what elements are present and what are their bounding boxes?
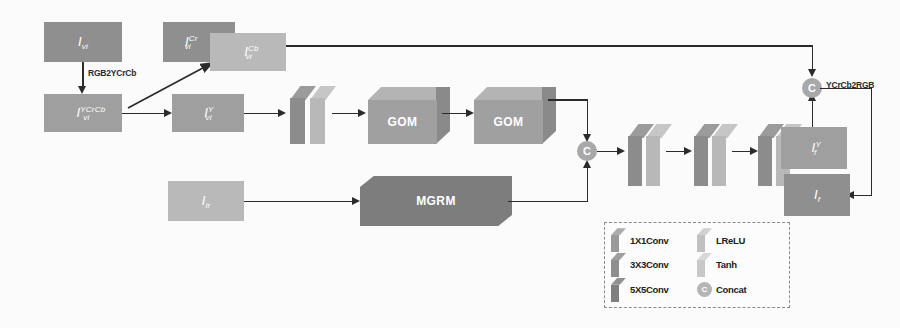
module-gom-1-label: GOM	[388, 115, 418, 129]
conv-slab-1x1-icon-front	[611, 235, 619, 252]
block-infrared: Iir	[168, 181, 244, 221]
conv-slab-1x1-icon-top	[611, 228, 626, 235]
decoder-activation-slab-1-front	[646, 136, 660, 186]
legend-label-concat: Concat	[716, 284, 746, 295]
module-mgrm: MGRM	[360, 176, 512, 226]
arrowhead-gom1-to-gom2	[466, 109, 474, 117]
arrowhead-mgrm-to-concat	[583, 160, 591, 168]
block-fused-rgb-label: If	[814, 187, 820, 204]
legend-item-lrelu: LReLU	[697, 228, 783, 253]
block-fused-y: IYf	[781, 127, 847, 169]
arrowhead-decoder-2-to-3	[750, 147, 758, 155]
tanh-slab-icon	[697, 253, 712, 277]
route-mgrm-to-concat-h	[508, 201, 588, 203]
block-visible-rgb-label: Ivi	[78, 34, 88, 51]
block-visible-cb-label: ICbvi	[244, 44, 252, 61]
legend-label-lrelu: LReLU	[716, 235, 745, 246]
arrow-rgb-to-ycrcb	[82, 62, 84, 88]
architecture-diagram: Ivi RGB2YCrCb IYCrCbvi ICrvi ICbvi IYvi	[0, 0, 900, 328]
conv-slab-3x3-icon-front	[611, 260, 619, 277]
module-gom-2-front: GOM	[474, 100, 543, 144]
feature-concat-node: C	[577, 141, 597, 161]
arrowhead-ycrcb-to-y	[164, 109, 172, 117]
block-visible-ycrcb-label: IYCrCbvi	[76, 105, 89, 122]
legend-item-tanh: Tanh	[697, 253, 783, 278]
conv-slab-5x5-icon-top	[611, 278, 626, 285]
block-fused-rgb: If	[784, 174, 850, 216]
block-infrared-label: Iir	[202, 193, 211, 210]
legend-label-5x5conv: 5X5Conv	[630, 284, 669, 295]
decoder-conv-slab-3-front	[758, 136, 772, 186]
route-fused-y-to-color-concat	[812, 99, 814, 127]
block-visible-rgb: Ivi	[44, 22, 122, 62]
block-visible-y-label: IYvi	[204, 105, 212, 122]
module-gom-1-side	[436, 87, 450, 144]
arrow-y-to-encoder	[244, 113, 280, 115]
legend-item-5x5conv: 5X5Conv	[611, 277, 697, 302]
encoder-activation-slab-front	[310, 98, 325, 144]
module-gom-2-side	[542, 87, 556, 144]
route-gom2-to-concat-v	[587, 99, 589, 138]
lrelu-slab-icon-front	[697, 235, 705, 252]
arrow-concat-to-decoder	[597, 151, 619, 153]
color-concat-label: C	[808, 82, 816, 94]
decoder-conv-slab-2-front	[694, 136, 708, 186]
block-visible-cb: ICbvi	[210, 33, 286, 71]
arrow-encoder-to-gom1	[332, 113, 360, 115]
tanh-slab-icon-front	[697, 260, 705, 277]
encoder-conv-slab-front	[290, 98, 305, 144]
conv-slab-3x3-icon-top	[611, 253, 626, 260]
decoder-activation-slab-2	[712, 124, 738, 186]
color-concat-node: C	[802, 78, 822, 98]
block-fused-y-label: IYf	[812, 140, 817, 157]
arrowhead-y-to-encoder	[278, 109, 286, 117]
concat-circle-icon: C	[697, 282, 712, 297]
decoder-conv-slab-1-front	[628, 136, 642, 186]
legend-item-concat: C Concat	[697, 277, 783, 302]
arrowhead-encoder-to-gom1	[358, 109, 366, 117]
route-mgrm-to-concat-v	[587, 166, 589, 201]
route-cb-to-color-concat-h	[286, 45, 813, 47]
route-gom2-to-concat-h	[548, 99, 588, 101]
decoder-activation-slab-2-front	[712, 136, 726, 186]
legend-item-1x1conv: 1X1Conv	[611, 228, 697, 253]
module-gom-1-front: GOM	[368, 100, 437, 144]
arrowhead-decoder-1-to-2	[684, 147, 692, 155]
block-visible-ycrcb: IYCrCbvi	[44, 94, 122, 132]
feature-concat-label: C	[583, 145, 591, 157]
arrow-decoder-2-to-3	[732, 151, 752, 153]
conv-slab-1x1-icon	[611, 228, 626, 252]
arrow-ir-to-mgrm	[244, 201, 354, 203]
route-color-concat-out-h2	[852, 195, 871, 197]
arrow-decoder-1-to-2	[666, 151, 686, 153]
arrow-gom1-to-gom2	[442, 113, 468, 115]
route-color-concat-out-h1	[820, 88, 872, 90]
conv-slab-5x5-icon-front	[611, 285, 619, 302]
arrowhead-concat-to-decoder	[617, 147, 625, 155]
conv-slab-5x5-icon	[611, 278, 626, 302]
module-gom-2: GOM	[474, 87, 556, 144]
module-gom-2-label: GOM	[494, 115, 524, 129]
arrow-ycrcb-to-y	[122, 113, 166, 115]
legend-label-tanh: Tanh	[716, 259, 737, 270]
module-mgrm-label: MGRM	[416, 194, 456, 208]
encoder-activation-slab	[310, 86, 336, 144]
legend-label-3x3conv: 3X3Conv	[630, 259, 669, 270]
lrelu-slab-icon	[697, 228, 712, 252]
legend-label-1x1conv: 1X1Conv	[630, 235, 669, 246]
legend-box: 1X1Conv LReLU 3X3Conv	[604, 222, 790, 308]
caption-rgb2ycrcb: RGB2YCrCb	[88, 68, 136, 78]
block-visible-y: IYvi	[172, 94, 244, 132]
lrelu-slab-icon-top	[697, 228, 712, 235]
tanh-slab-icon-top	[697, 253, 712, 260]
conv-slab-3x3-icon	[611, 253, 626, 277]
route-color-concat-out-v	[871, 88, 873, 196]
arrowhead-color-concat-top	[808, 69, 816, 77]
decoder-activation-slab-1	[646, 124, 672, 186]
arrowhead-rgb-to-ycrcb	[78, 86, 86, 94]
module-gom-1: GOM	[368, 87, 450, 144]
block-visible-cr-label: ICrvi	[185, 34, 191, 51]
arrowhead-ir-to-mgrm	[352, 197, 360, 205]
legend-item-3x3conv: 3X3Conv	[611, 253, 697, 278]
